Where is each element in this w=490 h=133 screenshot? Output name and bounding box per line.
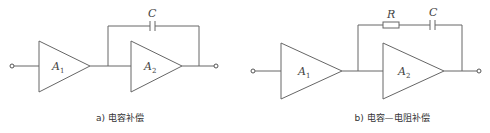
capacitor-icon bbox=[430, 20, 435, 30]
resistor-icon bbox=[383, 22, 399, 28]
amplifier-a1-a: A 1 bbox=[39, 41, 90, 92]
amp-subscript: 1 bbox=[60, 67, 64, 75]
panel-a-capacitor-compensation: A 1 A 2 C a) 电容补偿 bbox=[10, 7, 218, 123]
caption-b: b) 电容—电阻补偿 bbox=[354, 112, 429, 123]
capacitor-icon bbox=[150, 21, 155, 31]
output-terminal-b bbox=[477, 69, 481, 73]
circuit-diagram: A 1 A 2 C a) 电容补偿 bbox=[0, 0, 490, 133]
amp-subscript: 2 bbox=[406, 72, 410, 80]
amplifier-a2-b: A 2 bbox=[383, 43, 444, 99]
capacitor-label: C bbox=[148, 7, 157, 20]
resistor-label: R bbox=[386, 8, 395, 21]
input-terminal-a bbox=[10, 64, 14, 68]
output-terminal-a bbox=[214, 64, 218, 68]
amp-subscript: 2 bbox=[152, 67, 156, 75]
amp-label: A bbox=[143, 60, 152, 73]
input-terminal-b bbox=[251, 69, 255, 73]
capacitor-label: C bbox=[429, 6, 438, 19]
amp-subscript: 1 bbox=[306, 72, 310, 80]
amplifier-a1-b: A 1 bbox=[281, 43, 342, 99]
caption-a: a) 电容补偿 bbox=[96, 112, 144, 123]
amp-label: A bbox=[51, 60, 60, 73]
amp-label: A bbox=[397, 65, 406, 78]
panel-b-capacitor-resistor-compensation: A 1 A 2 R C b) 电容— bbox=[251, 6, 481, 123]
amp-label: A bbox=[297, 65, 306, 78]
amplifier-a2-a: A 2 bbox=[131, 41, 182, 92]
